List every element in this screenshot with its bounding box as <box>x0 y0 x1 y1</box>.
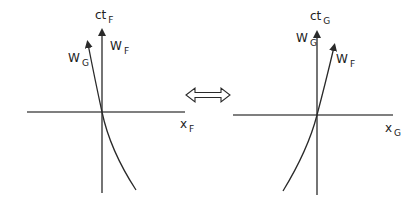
diagram-canvas <box>0 0 418 204</box>
right-worldline-curved-label: WF <box>336 53 355 65</box>
left-time-axis-label: ctF <box>95 9 114 21</box>
right-time-axis-label: ctG <box>310 10 330 22</box>
right-space-axis-label: xG <box>385 122 401 134</box>
left-worldline-straight-label: WF <box>110 40 129 52</box>
double-arrow-icon <box>186 88 230 102</box>
left-spacetime-diagram <box>27 32 185 193</box>
left-worldline-curved-label: WG <box>68 52 89 64</box>
right-spacetime-diagram <box>233 34 393 195</box>
right-worldline-straight-label: WG <box>296 32 317 44</box>
left-space-axis-label: xF <box>180 118 194 130</box>
left-curved-worldline <box>88 44 136 190</box>
right-curved-worldline <box>283 47 334 191</box>
